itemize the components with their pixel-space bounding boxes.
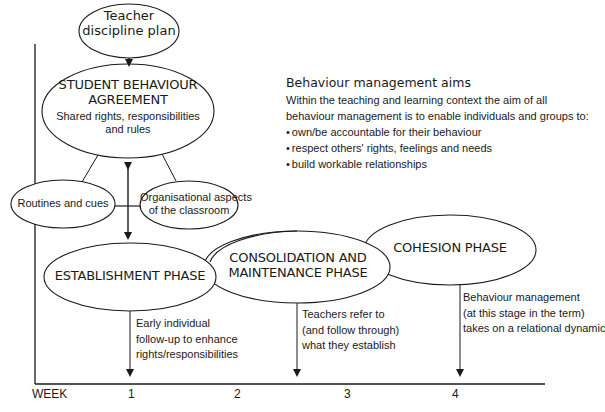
establishment-note-line1: Early individual <box>136 316 238 332</box>
cohesion-note-line3: takes on a relational dynamic <box>463 321 605 337</box>
agreement-node: STUDENT BEHAVIOUR AGREEMENT Shared right… <box>42 78 214 135</box>
week-tick-3: 3 <box>344 387 351 401</box>
agreement-to-routines-line <box>82 155 98 182</box>
agreement-to-organisational-line <box>162 154 176 181</box>
aims-bullet-list: own/be accountable for their behaviour r… <box>286 124 589 172</box>
cohesion-note-line2: (at this stage in the term) <box>463 306 605 322</box>
routines-label: Routines and cues <box>17 197 108 209</box>
aims-bullet: build workable relationships <box>286 156 589 172</box>
consolidation-node: CONSOLIDATION AND MAINTENANCE PHASE <box>210 251 386 281</box>
aims-bullet: own/be accountable for their behaviour <box>286 124 589 140</box>
week-axis-label: WEEK <box>32 387 67 401</box>
consolidation-note-line1: Teachers refer to <box>302 307 399 323</box>
establishment-label: ESTABLISHMENT PHASE <box>55 268 206 283</box>
aims-body: Within the teaching and learning context… <box>286 92 589 172</box>
consolidation-line2: MAINTENANCE PHASE <box>210 266 386 281</box>
cohesion-label: COHESION PHASE <box>393 240 507 255</box>
consolidation-note-line3: what they establish <box>302 338 399 354</box>
organisational-node: Organisational aspects of the classroom <box>140 191 238 216</box>
agreement-sub-line1: Shared rights, responsibilities <box>42 110 214 123</box>
cohesion-node: COHESION PHASE <box>364 241 536 256</box>
week-tick-4: 4 <box>452 387 459 401</box>
establishment-note: Early individual follow-up to enhance ri… <box>136 316 238 363</box>
organisational-line1: Organisational aspects <box>140 191 238 204</box>
consolidation-note: Teachers refer to (and follow through) w… <box>302 307 399 354</box>
agreement-sub-line2: and rules <box>42 123 214 136</box>
teacher-plan-line2: discipline plan <box>79 24 179 39</box>
week-tick-2: 2 <box>234 387 241 401</box>
teacher-plan-line1: Teacher <box>79 9 179 24</box>
aims-bullet: respect others' rights, feelings and nee… <box>286 140 589 156</box>
establishment-note-line3: rights/responsibilities <box>136 347 238 363</box>
aims-intro-line1: Within the teaching and learning context… <box>286 92 589 108</box>
establishment-node: ESTABLISHMENT PHASE <box>44 269 216 284</box>
aims-title: Behaviour management aims <box>286 75 471 90</box>
cohesion-note: Behaviour management (at this stage in t… <box>463 290 605 337</box>
consolidation-line1: CONSOLIDATION AND <box>210 251 386 266</box>
week-tick-1: 1 <box>128 387 135 401</box>
organisational-line2: of the classroom <box>140 204 238 217</box>
aims-intro-line2: behaviour management is to enable indivi… <box>286 108 589 124</box>
routines-node: Routines and cues <box>11 197 115 210</box>
agreement-title-line1: STUDENT BEHAVIOUR <box>42 78 214 93</box>
cohesion-note-line1: Behaviour management <box>463 290 605 306</box>
agreement-title-line2: AGREEMENT <box>42 93 214 108</box>
establishment-note-line2: follow-up to enhance <box>136 332 238 348</box>
consolidation-note-line2: (and follow through) <box>302 323 399 339</box>
teacher-plan-node: Teacher discipline plan <box>79 9 179 39</box>
